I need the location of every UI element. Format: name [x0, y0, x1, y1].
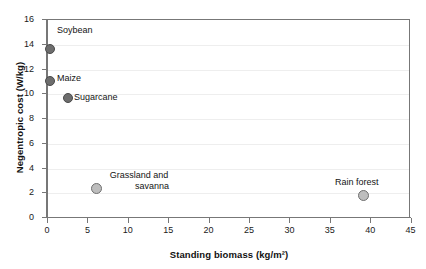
point-label-sugarcane: Sugarcane [74, 92, 118, 103]
gridline-12 [47, 70, 409, 71]
x-ticklabel-0: 0 [32, 225, 62, 235]
y-ticklabel-0: 0 [0, 212, 34, 222]
gridline-14 [47, 45, 409, 46]
x-ticklabel-30: 30 [274, 225, 304, 235]
y-tick-6 [42, 143, 47, 144]
x-tick-30 [289, 218, 290, 223]
y-tick-8 [42, 118, 47, 119]
x-ticklabel-20: 20 [194, 225, 224, 235]
x-ticklabel-5: 5 [72, 225, 102, 235]
y-ticklabel-12: 12 [0, 64, 34, 74]
x-ticklabel-25: 25 [234, 225, 264, 235]
y-ticklabel-4: 4 [0, 163, 34, 173]
y-tick-12 [42, 69, 47, 70]
x-tick-45 [411, 218, 412, 223]
x-ticklabel-15: 15 [153, 225, 183, 235]
y-tick-2 [42, 192, 47, 193]
x-tick-5 [87, 218, 88, 223]
y-ticklabel-2: 2 [0, 187, 34, 197]
x-ticklabel-10: 10 [113, 225, 143, 235]
x-tick-20 [209, 218, 210, 223]
y-ticklabel-8: 8 [0, 113, 34, 123]
y-ticklabel-14: 14 [0, 39, 34, 49]
y-tick-16 [42, 19, 47, 20]
data-point-sugarcane[interactable] [63, 93, 73, 103]
x-tick-25 [249, 218, 250, 223]
x-tick-10 [128, 218, 129, 223]
x-axis-title: Standing biomass (kg/m²) [47, 249, 411, 260]
x-tick-40 [370, 218, 371, 223]
x-axis-line [47, 217, 411, 218]
x-ticklabel-40: 40 [355, 225, 385, 235]
y-tick-4 [42, 168, 47, 169]
x-tick-15 [168, 218, 169, 223]
point-label-rain-forest: Rain forest [335, 177, 379, 188]
gridline-8 [47, 119, 409, 120]
point-label-grassland-and-savanna-line2: savanna [92, 181, 212, 192]
y-ticklabel-6: 6 [0, 138, 34, 148]
scatter-chart: Negentropic cost (W/kg) 0 2 4 6 8 10 12 … [0, 0, 426, 269]
data-point-rain-forest[interactable] [358, 190, 369, 201]
gridline-6 [47, 144, 409, 145]
y-tick-10 [42, 93, 47, 94]
gridline-2 [47, 193, 409, 194]
point-label-grassland-and-savanna-line1: Grassland and [79, 170, 199, 181]
point-label-maize: Maize [57, 73, 81, 84]
y-ticklabel-16: 16 [0, 14, 34, 24]
x-tick-0 [47, 218, 48, 223]
x-ticklabel-35: 35 [315, 225, 345, 235]
point-label-soybean: Soybean [57, 25, 93, 36]
x-tick-35 [330, 218, 331, 223]
y-ticklabel-10: 10 [0, 88, 34, 98]
x-ticklabel-45: 45 [396, 225, 426, 235]
